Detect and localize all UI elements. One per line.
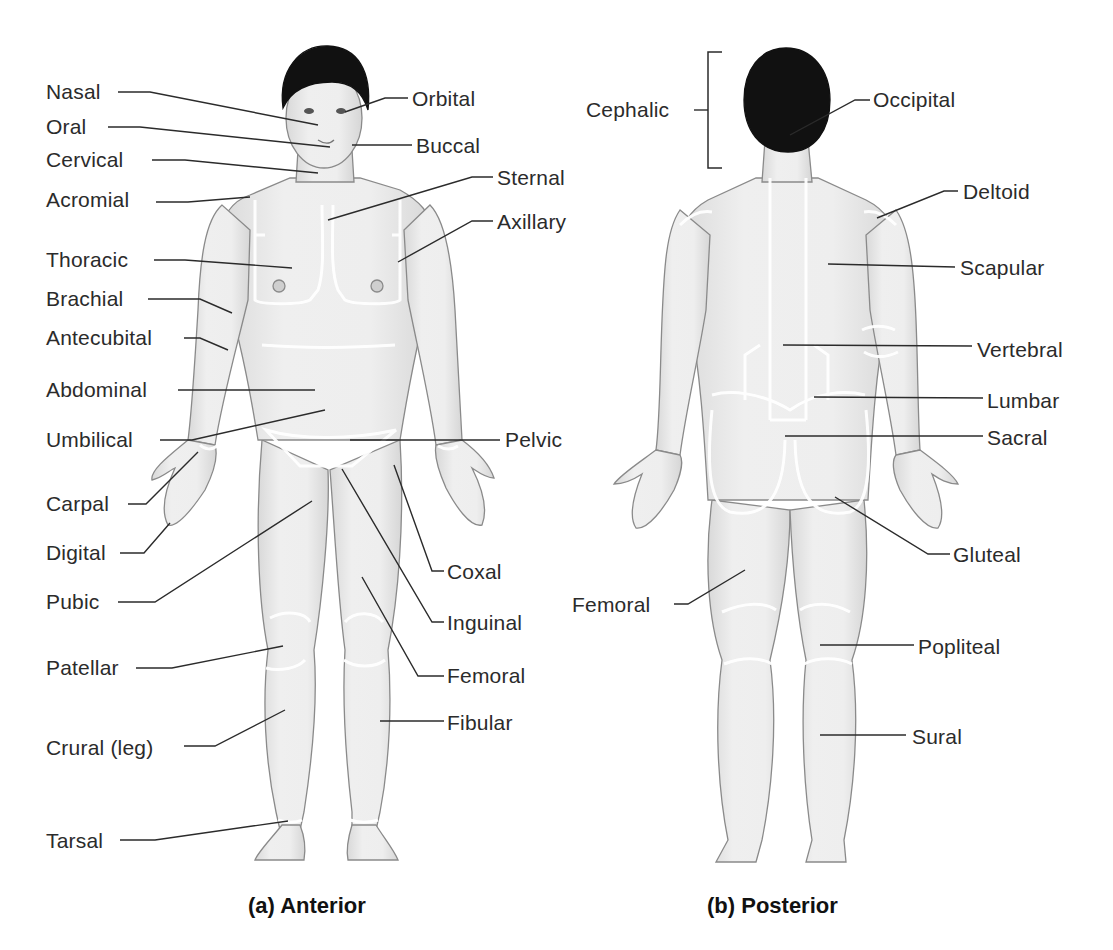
posterior-left-leg xyxy=(708,500,790,862)
anterior-right-foot xyxy=(347,825,398,860)
anterior-label-abdominal: Abdominal xyxy=(46,378,147,402)
posterior-label-femoral: Femoral xyxy=(572,593,650,617)
posterior-label-sacral: Sacral xyxy=(987,426,1048,450)
anterior-label-umbilical: Umbilical xyxy=(46,428,133,452)
posterior-label-occipital: Occipital xyxy=(873,88,955,112)
anterior-label-digital: Digital xyxy=(46,541,106,565)
anterior-label-acromial: Acromial xyxy=(46,188,129,212)
anterior-right-hand xyxy=(435,440,494,525)
posterior-label-scapular: Scapular xyxy=(960,256,1044,280)
posterior-caption: (b) Posterior xyxy=(707,893,838,919)
anterior-leader-line xyxy=(136,646,283,668)
anterior-label-femoral: Femoral xyxy=(447,664,525,688)
posterior-label-deltoid: Deltoid xyxy=(963,180,1030,204)
anterior-label-coxal: Coxal xyxy=(447,560,502,584)
anterior-label-orbital: Orbital xyxy=(412,87,475,111)
anterior-label-fibular: Fibular xyxy=(447,711,513,735)
anterior-right-arm xyxy=(404,205,462,445)
posterior-figure xyxy=(614,48,958,862)
anterior-label-cervical: Cervical xyxy=(46,148,123,172)
posterior-right-hand xyxy=(893,450,958,528)
anterior-torso xyxy=(218,178,436,440)
anterior-label-patellar: Patellar xyxy=(46,656,119,680)
anterior-leader-line xyxy=(120,523,170,553)
posterior-label-gluteal: Gluteal xyxy=(953,543,1021,567)
anterior-leader-line xyxy=(152,160,318,173)
posterior-leader-line xyxy=(877,191,958,218)
posterior-label-cephalic: Cephalic xyxy=(586,98,669,122)
anterior-label-oral: Oral xyxy=(46,115,86,139)
anterior-left-arm xyxy=(188,205,250,445)
anterior-label-carpal: Carpal xyxy=(46,492,109,516)
anterior-caption: (a) Anterior xyxy=(248,893,366,919)
posterior-left-arm xyxy=(656,210,710,455)
anterior-label-buccal: Buccal xyxy=(416,134,480,158)
anterior-label-inguinal: Inguinal xyxy=(447,611,522,635)
anterior-label-nasal: Nasal xyxy=(46,80,101,104)
posterior-label-lumbar: Lumbar xyxy=(987,389,1059,413)
anterior-left-hand xyxy=(152,440,216,525)
anterior-left-leg xyxy=(258,440,328,830)
anterior-right-leg xyxy=(330,440,402,830)
anterior-figure xyxy=(152,46,494,860)
posterior-label-popliteal: Popliteal xyxy=(918,635,1000,659)
body-figures xyxy=(0,0,1113,950)
posterior-right-leg xyxy=(790,500,867,862)
anterior-label-brachial: Brachial xyxy=(46,287,123,311)
cephalic-bracket xyxy=(708,52,722,168)
posterior-label-sural: Sural xyxy=(912,725,962,749)
posterior-left-hand xyxy=(614,450,682,528)
anterior-label-pubic: Pubic xyxy=(46,590,100,614)
posterior-right-arm xyxy=(866,210,920,455)
anterior-label-sternal: Sternal xyxy=(497,166,565,190)
posterior-label-vertebral: Vertebral xyxy=(977,338,1063,362)
posterior-head xyxy=(744,48,830,152)
anterior-label-axillary: Axillary xyxy=(497,210,566,234)
posterior-leader-line xyxy=(814,397,983,398)
body-regions-diagram: NasalOralCervicalAcromialThoracicBrachia… xyxy=(0,0,1113,950)
anterior-label-pelvic: Pelvic xyxy=(505,428,562,452)
anterior-leader-line xyxy=(120,821,288,840)
anterior-label-antecubital: Antecubital xyxy=(46,326,152,350)
anterior-leader-line xyxy=(156,197,250,202)
anterior-label-thoracic: Thoracic xyxy=(46,248,128,272)
anterior-left-foot xyxy=(255,825,305,860)
anterior-label-tarsal: Tarsal xyxy=(46,829,103,853)
anterior-label-crural-leg: Crural (leg) xyxy=(46,736,153,760)
